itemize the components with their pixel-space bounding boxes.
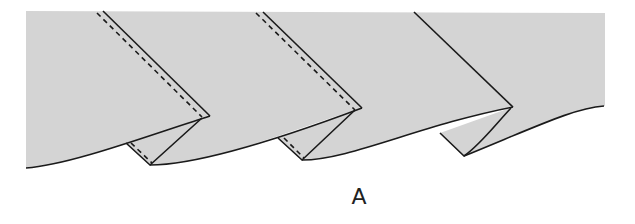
pleated-fabric-diagram <box>0 0 635 224</box>
figure-label: A <box>347 186 371 208</box>
fabric-body <box>26 11 605 168</box>
